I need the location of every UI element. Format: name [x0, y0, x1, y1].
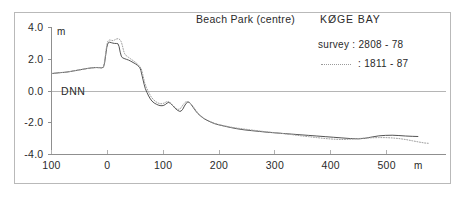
- x-tick-label: 400: [311, 159, 351, 171]
- y-tick-label: -4.0: [18, 148, 44, 160]
- x-tick-label: 100: [143, 159, 183, 171]
- legend-line-sample-1811-87: [321, 64, 351, 65]
- y-tick-label: 2.0: [18, 53, 44, 65]
- y-tick-label: 0.0: [18, 85, 44, 97]
- x-tick-label: 200: [199, 159, 239, 171]
- y-tick-label: 4.0: [18, 21, 44, 33]
- x-tick-label: 500: [367, 159, 407, 171]
- x-tick-label: 100: [32, 159, 72, 171]
- chart-title-left: Beach Park (centre): [196, 13, 295, 25]
- datum-label-dnn: DNN: [61, 85, 86, 97]
- legend-entry-1811-87: : 1811 - 87: [358, 58, 408, 69]
- legend-entry-survey-2808-78: survey : 2808 - 78: [318, 39, 403, 50]
- y-tick-label: -2.0: [18, 116, 44, 128]
- chart-title-right: KØGE BAY: [320, 13, 381, 25]
- x-tick-label: 0: [87, 159, 127, 171]
- x-axis-unit-label: m: [414, 160, 423, 171]
- y-axis-unit-label: m: [57, 26, 66, 37]
- x-tick-label: 300: [255, 159, 295, 171]
- figure-container: Beach Park (centre) KØGE BAY survey : 28…: [0, 0, 466, 197]
